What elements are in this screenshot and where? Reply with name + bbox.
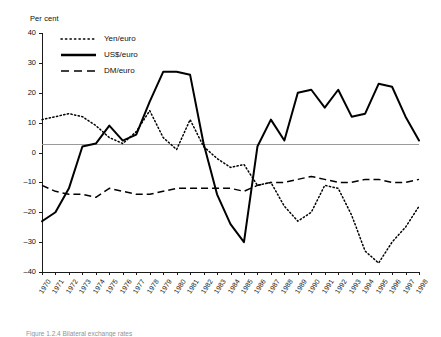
x-tick-1984 bbox=[231, 272, 232, 275]
x-tick-1980 bbox=[177, 272, 178, 275]
y-axis-unit-label: Per cent bbox=[30, 14, 59, 23]
x-tick-label-1997: 1997 bbox=[401, 278, 415, 295]
x-tick-1996 bbox=[392, 272, 393, 275]
y-tick-label-0: 0 bbox=[32, 149, 36, 157]
y-tick-label--40: –40 bbox=[23, 268, 36, 276]
legend-item-usd: US$/euro bbox=[60, 48, 138, 61]
x-tick-label-1970: 1970 bbox=[38, 278, 52, 295]
x-tick-1970 bbox=[42, 272, 43, 275]
x-tick-1975 bbox=[109, 272, 110, 275]
y-tick-label-10: 10 bbox=[28, 119, 36, 127]
x-tick-1977 bbox=[136, 272, 137, 275]
y-tick-label-30: 30 bbox=[28, 59, 36, 67]
x-tick-label-1989: 1989 bbox=[293, 278, 307, 295]
x-tick-1974 bbox=[96, 272, 97, 275]
legend-key-solid-icon bbox=[60, 50, 97, 60]
figure-container: Per cent 403020100–10–20–30–40 197019711… bbox=[0, 0, 441, 337]
x-tick-1982 bbox=[204, 272, 205, 275]
x-tick-1986 bbox=[257, 272, 258, 275]
x-tick-label-1978: 1978 bbox=[145, 278, 159, 295]
y-tick-label-40: 40 bbox=[28, 29, 36, 37]
x-tick-label-1972: 1972 bbox=[64, 278, 78, 295]
x-tick-1973 bbox=[82, 272, 83, 275]
x-tick-1992 bbox=[338, 272, 339, 275]
x-tick-1983 bbox=[217, 272, 218, 275]
x-tick-label-1973: 1973 bbox=[78, 278, 92, 295]
legend-label-yen: Yen/euro bbox=[104, 34, 136, 43]
x-tick-label-1979: 1979 bbox=[159, 278, 173, 295]
x-tick-label-1985: 1985 bbox=[239, 278, 253, 295]
x-tick-1987 bbox=[271, 272, 272, 275]
x-tick-label-1990: 1990 bbox=[307, 278, 321, 295]
x-tick-1989 bbox=[298, 272, 299, 275]
x-tick-1971 bbox=[55, 272, 56, 275]
legend-label-dm: DM/euro bbox=[104, 66, 135, 75]
x-tick-1997 bbox=[406, 272, 407, 275]
x-tick-label-1971: 1971 bbox=[51, 278, 65, 295]
x-tick-1978 bbox=[150, 272, 151, 275]
x-tick-label-1994: 1994 bbox=[361, 278, 375, 295]
x-tick-1979 bbox=[163, 272, 164, 275]
series-line-us-euro bbox=[42, 72, 419, 242]
chart-legend: Yen/euro US$/euro DM/euro bbox=[60, 32, 138, 80]
x-tick-label-1977: 1977 bbox=[132, 278, 146, 295]
x-tick-label-1981: 1981 bbox=[186, 278, 200, 295]
x-tick-label-1993: 1993 bbox=[347, 278, 361, 295]
legend-item-yen: Yen/euro bbox=[60, 32, 138, 45]
x-tick-1995 bbox=[379, 272, 380, 275]
series-line-yen-euro bbox=[42, 111, 419, 263]
x-tick-1972 bbox=[69, 272, 70, 275]
x-tick-label-1995: 1995 bbox=[374, 278, 388, 295]
x-tick-label-1975: 1975 bbox=[105, 278, 119, 295]
x-tick-label-1991: 1991 bbox=[320, 278, 334, 295]
x-tick-label-1986: 1986 bbox=[253, 278, 267, 295]
y-tick-label--20: –20 bbox=[23, 209, 36, 217]
legend-label-usd: US$/euro bbox=[104, 50, 138, 59]
x-tick-1994 bbox=[365, 272, 366, 275]
x-tick-1991 bbox=[325, 272, 326, 275]
x-tick-1998 bbox=[419, 272, 420, 275]
figure-caption: Figure 1.2.4 Bilateral exchange rates bbox=[26, 330, 132, 337]
x-tick-label-1996: 1996 bbox=[388, 278, 402, 295]
x-tick-1990 bbox=[311, 272, 312, 275]
x-tick-label-1982: 1982 bbox=[199, 278, 213, 295]
series-line-dm-euro bbox=[42, 176, 419, 197]
x-tick-label-1976: 1976 bbox=[118, 278, 132, 295]
y-tick-label--10: –10 bbox=[23, 179, 36, 187]
x-tick-1985 bbox=[244, 272, 245, 275]
x-tick-label-1998: 1998 bbox=[415, 278, 429, 295]
legend-key-dotted-icon bbox=[60, 34, 97, 44]
x-tick-1993 bbox=[352, 272, 353, 275]
x-tick-label-1983: 1983 bbox=[213, 278, 227, 295]
y-tick-label--30: –30 bbox=[23, 238, 36, 246]
legend-key-dashed-icon bbox=[60, 66, 97, 76]
x-tick-1976 bbox=[123, 272, 124, 275]
x-tick-label-1992: 1992 bbox=[334, 278, 348, 295]
x-tick-label-1980: 1980 bbox=[172, 278, 186, 295]
x-tick-label-1987: 1987 bbox=[266, 278, 280, 295]
x-tick-label-1984: 1984 bbox=[226, 278, 240, 295]
x-tick-1981 bbox=[190, 272, 191, 275]
x-tick-label-1988: 1988 bbox=[280, 278, 294, 295]
x-tick-1988 bbox=[284, 272, 285, 275]
y-tick-label-20: 20 bbox=[28, 89, 36, 97]
legend-item-dm: DM/euro bbox=[60, 64, 138, 77]
x-tick-label-1974: 1974 bbox=[91, 278, 105, 295]
